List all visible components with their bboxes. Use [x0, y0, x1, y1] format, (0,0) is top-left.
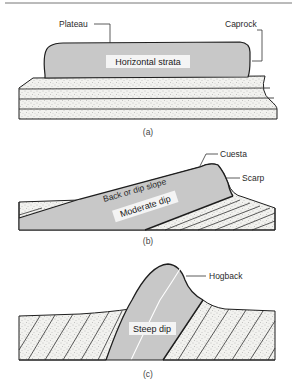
label-steep-dip: Steep dip: [133, 324, 171, 334]
label-hogback: Hogback: [209, 271, 243, 281]
label-horizontal-strata: Horizontal strata: [115, 57, 181, 67]
horizontal-strata-base: [19, 76, 277, 119]
panel-b: Back or dip slope Moderate dip Cuesta Sc…: [19, 149, 275, 246]
label-plateau: Plateau: [59, 19, 88, 29]
label-scarp: Scarp: [242, 173, 264, 183]
panel-c: Steep dip Hogback (c): [19, 264, 275, 379]
panel-a: Horizontal strata Plateau Caprock (a): [19, 19, 277, 137]
caption-a: (a): [143, 127, 154, 137]
label-cuesta: Cuesta: [220, 149, 247, 159]
label-caprock: Caprock: [225, 19, 257, 29]
caption-c: (c): [143, 369, 153, 379]
caption-b: (b): [143, 236, 154, 246]
landform-diagram: Horizontal strata Plateau Caprock (a): [0, 0, 293, 388]
